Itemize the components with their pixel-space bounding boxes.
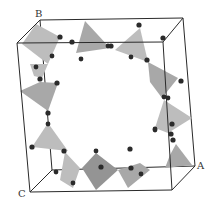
tetrahedron: [30, 64, 48, 78]
tetrahedron: [20, 82, 58, 111]
tetrahedron: [76, 21, 110, 53]
tetrahedron: [148, 62, 178, 98]
tetrahedron: [155, 100, 192, 133]
tetrahedron: [82, 153, 118, 190]
tetrahedron: [22, 24, 60, 64]
crystal-structure-diagram: B A C: [0, 0, 214, 209]
tetrahedron: [118, 163, 150, 188]
axis-label-a: A: [196, 160, 205, 171]
axis-label-c: C: [18, 188, 26, 199]
tetrahedron: [32, 123, 68, 151]
axis-label-b: B: [35, 8, 42, 19]
tetrahedron: [60, 152, 80, 188]
